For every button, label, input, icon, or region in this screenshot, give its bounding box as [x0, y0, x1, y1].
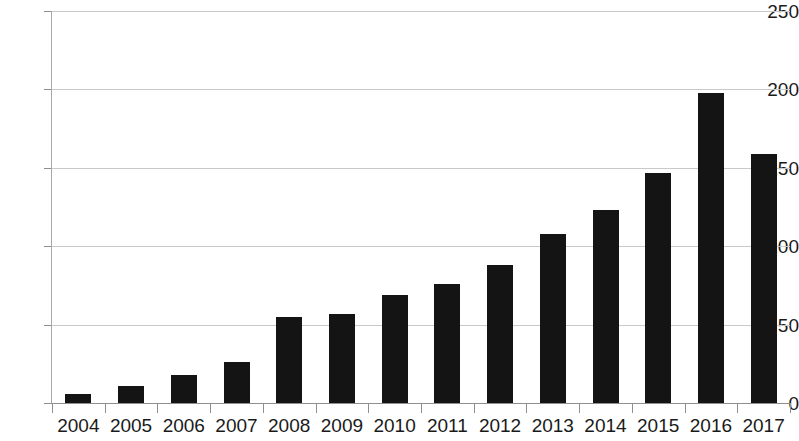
x-axis-tick-mark	[737, 404, 738, 413]
bar	[382, 295, 408, 403]
x-axis-tick-label: 2014	[579, 416, 632, 435]
bar-chart: 050100150200250 200420052006200720082009…	[0, 0, 799, 441]
x-axis-tick-mark	[157, 404, 158, 413]
x-axis-tick-label: 2009	[316, 416, 369, 435]
x-axis-tick-label: 2011	[421, 416, 474, 435]
x-axis-tick-label: 2012	[474, 416, 527, 435]
x-axis-tick-label: 2015	[632, 416, 685, 435]
bar	[751, 154, 777, 403]
x-axis-tick-label: 2008	[263, 416, 316, 435]
x-axis-tick-mark	[685, 404, 686, 413]
x-axis-tick-mark	[368, 404, 369, 413]
x-axis-tick-mark	[210, 404, 211, 413]
x-axis-tick-label: 2013	[526, 416, 579, 435]
x-axis-tick-label: 2010	[368, 416, 421, 435]
bar	[487, 265, 513, 403]
x-axis-tick-mark	[421, 404, 422, 413]
x-axis-tick-label: 2016	[685, 416, 738, 435]
bar-series	[52, 11, 790, 403]
bar	[276, 317, 302, 403]
x-axis-tick-mark	[316, 404, 317, 413]
x-axis: 2004200520062007200820092010201120122013…	[52, 404, 790, 441]
x-axis-tick-mark	[52, 404, 53, 413]
x-axis-tick-mark	[632, 404, 633, 413]
bar	[698, 93, 724, 403]
bar	[593, 210, 619, 403]
bar	[329, 314, 355, 403]
x-axis-tick-label: 2017	[737, 416, 790, 435]
bar	[118, 386, 144, 403]
x-axis-tick-mark	[474, 404, 475, 413]
x-axis-tick-mark	[526, 404, 527, 413]
x-axis-tick-mark	[263, 404, 264, 413]
x-axis-tick-label: 2006	[157, 416, 210, 435]
x-axis-tick-mark	[579, 404, 580, 413]
bar	[434, 284, 460, 403]
x-axis-tick-mark	[105, 404, 106, 413]
bar	[645, 173, 671, 403]
x-axis-tick-label: 2007	[210, 416, 263, 435]
x-axis-tick-label: 2005	[105, 416, 158, 435]
bar	[224, 362, 250, 403]
bar	[171, 375, 197, 403]
x-axis-tick-label: 2004	[52, 416, 105, 435]
bar	[65, 394, 91, 403]
bar	[540, 234, 566, 403]
x-axis-tick-mark	[790, 404, 791, 413]
